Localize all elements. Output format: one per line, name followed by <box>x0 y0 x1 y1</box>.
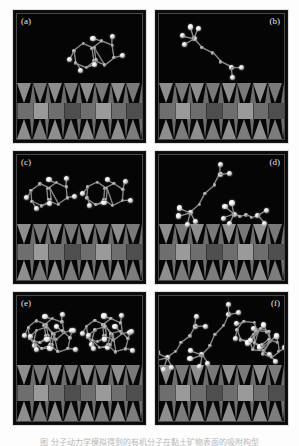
hydrogen-atom <box>234 321 239 326</box>
oxygen-atom <box>188 348 193 353</box>
octahedral-seam <box>175 385 176 401</box>
octahedral-seam <box>17 385 18 401</box>
carbon-atom <box>85 66 88 69</box>
panel-c-molecule-2 <box>75 163 139 225</box>
octahedral-seam <box>17 244 18 260</box>
octahedron-cell <box>190 244 206 260</box>
panel-e-scene <box>17 296 142 421</box>
hydrogen-atom <box>34 347 39 352</box>
panel-d-molecule-2 <box>215 201 277 231</box>
octahedral-seam <box>190 244 191 260</box>
hydrogen-atom <box>185 222 190 227</box>
octahedral-sheet <box>159 385 284 401</box>
octahedral-seam <box>64 385 65 401</box>
carbon-atom <box>259 327 262 330</box>
carbon-atom <box>179 341 182 344</box>
panel-d-scene <box>159 155 284 280</box>
carbon-atom <box>198 203 201 206</box>
carbon-atom <box>267 330 270 333</box>
octahedral-seam <box>222 244 223 260</box>
panel-f-molecule-4 <box>241 318 284 370</box>
panel-a-molecule-1 <box>61 20 131 88</box>
octahedron-cell <box>48 244 64 260</box>
octahedral-seam <box>159 244 160 260</box>
hydrogen-atom <box>129 329 134 334</box>
hydrogen-atom <box>227 171 232 176</box>
octahedral-sheet <box>159 244 284 260</box>
panel-b: (b) <box>155 10 288 143</box>
hydrogen-atom <box>180 33 185 38</box>
octahedron-cell <box>80 385 96 401</box>
hydrogen-atom <box>91 346 96 351</box>
carbon-atom <box>51 332 54 335</box>
octahedral-seam <box>222 385 223 401</box>
panel-f-substrate <box>159 365 284 421</box>
octahedron-cell <box>95 385 111 401</box>
tetrahedral-sheet-upper <box>159 83 284 103</box>
oxygen-atom <box>229 200 234 205</box>
octahedron-cell <box>175 244 191 260</box>
tetrahedron-up <box>281 83 284 103</box>
octahedron-cell <box>206 385 222 401</box>
carbon-atom <box>103 187 106 190</box>
hydrogen-atom <box>221 216 226 221</box>
carbon-atom <box>103 325 106 328</box>
hydrogen-atom <box>197 364 202 369</box>
hydrogen-atom <box>262 221 267 226</box>
octahedral-seam <box>206 103 207 119</box>
panel-c-label: (c) <box>21 157 31 167</box>
octahedron-cell <box>126 385 142 401</box>
panel-b-scene <box>159 14 284 139</box>
carbon-atom <box>213 333 216 336</box>
hydrogen-atom <box>28 334 33 339</box>
tetrahedral-sheet-lower <box>159 119 284 139</box>
hydrogen-atom <box>264 208 269 213</box>
tetrahedron-up <box>139 83 142 103</box>
tetrahedron-down <box>139 401 142 421</box>
octahedron-cell <box>111 244 127 260</box>
octahedral-seam <box>111 103 112 119</box>
hydrogen-atom <box>193 219 198 224</box>
hydrogen-atom <box>205 361 210 366</box>
octahedron-cell <box>17 385 33 401</box>
oxygen-atom <box>54 324 59 329</box>
octahedral-seam <box>17 103 18 119</box>
tetrahedron-up <box>139 224 142 244</box>
octahedron-cell <box>64 244 80 260</box>
hydrogen-atom <box>64 176 69 181</box>
octahedral-seam <box>33 244 34 260</box>
hydrogen-atom <box>87 203 92 208</box>
hydrogen-atom <box>233 336 238 341</box>
panel-e: (e) <box>13 292 146 425</box>
oxygen-atom <box>187 356 192 361</box>
octahedron-cell <box>95 244 111 260</box>
octahedral-seam <box>95 103 96 119</box>
octahedron-cell <box>175 103 191 119</box>
tetrahedral-sheet-lower <box>17 119 142 139</box>
panel-b-label: (b) <box>270 16 281 26</box>
octahedral-seam <box>95 385 96 401</box>
oxygen-atom <box>274 333 279 338</box>
carbon-atom <box>112 56 115 59</box>
octahedron-cell <box>190 103 206 119</box>
panel-e-label: (e) <box>21 298 31 308</box>
tetrahedron-down <box>281 119 284 139</box>
carbon-atom <box>90 47 93 50</box>
octahedral-seam <box>111 385 112 401</box>
octahedral-seam <box>111 244 112 260</box>
octahedron-cell <box>159 244 175 260</box>
octahedral-seam <box>190 385 191 401</box>
octahedral-seam <box>222 103 223 119</box>
octahedron-cell <box>126 244 142 260</box>
carbon-atom <box>40 204 43 207</box>
hydrogen-atom <box>80 191 85 196</box>
tetrahedron-down <box>139 260 142 280</box>
panel-a-substrate <box>17 83 142 139</box>
octahedral-seam <box>48 385 49 401</box>
panel-d-label: (d) <box>270 157 281 167</box>
tetrahedral-sheet-lower <box>159 401 284 421</box>
carbon-atom <box>252 333 255 336</box>
carbon-atom <box>91 339 94 342</box>
octahedral-seam <box>206 244 207 260</box>
oxygen-atom <box>222 204 227 209</box>
